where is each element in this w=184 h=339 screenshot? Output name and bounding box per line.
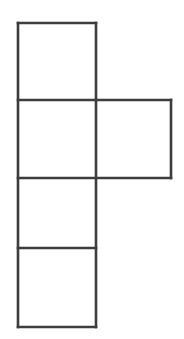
square-top-face [18, 23, 96, 100]
cube-net-figure [0, 0, 184, 339]
square-bottom-face [18, 248, 96, 327]
square-second-right-face [96, 100, 171, 178]
square-third-face [18, 178, 96, 248]
square-second-left-face [18, 100, 96, 178]
